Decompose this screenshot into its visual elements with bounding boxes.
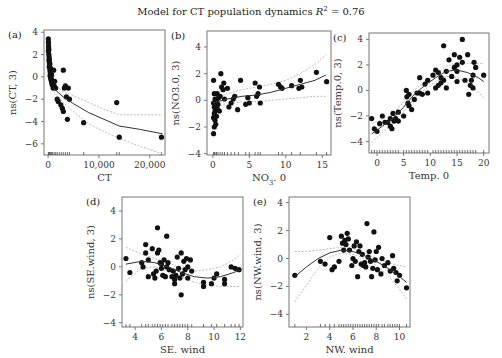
y-tick-label: 4 [357,34,363,44]
data-point [299,84,304,89]
data-point [417,75,422,80]
data-point [65,117,70,122]
x-tick-label: 10 [425,158,437,168]
y-tick-label: 2 [32,50,38,60]
data-point [189,268,194,273]
data-point [343,242,348,247]
data-point [52,79,57,84]
data-point [436,70,441,75]
data-point [367,249,372,254]
data-point [349,263,354,268]
y-tick-label: −4 [270,309,284,319]
data-point [66,85,71,90]
data-point [454,62,459,67]
data-point [469,78,474,83]
y-axis-label: ns(NO3.0, 3) [170,60,181,125]
y-tick-label: −2 [188,122,201,132]
data-point [211,78,216,83]
data-point [460,60,465,65]
data-point [401,113,406,118]
data-point [221,80,226,85]
data-point [354,239,359,244]
data-point [357,243,362,248]
data-point [339,234,344,239]
data-point [179,250,184,255]
data-point [364,221,369,226]
data-point [220,87,225,92]
x-tick-label: 5 [401,158,407,168]
y-tick-label: 2 [357,60,363,70]
x-tick-label: 4 [327,332,333,342]
data-point [353,259,358,264]
data-point [257,84,262,89]
y-tick-label: 2 [110,234,116,244]
data-point [212,124,217,129]
data-point [346,236,351,241]
data-point [454,79,459,84]
data-point [420,92,425,97]
data-point [470,85,475,90]
data-point [49,72,54,77]
y-tick-label: 4 [32,27,38,37]
data-point [473,65,478,70]
x-tick-label: 20,000 [134,160,166,170]
y-axis-label: ns(Temp.0, 3) [332,58,343,127]
data-point [114,100,119,105]
y-tick-label: 0 [357,85,363,95]
x-tick-label: 6 [350,332,356,342]
panel-label: (a) [8,29,22,40]
data-point [222,281,227,286]
ci-lower-line [295,253,407,302]
gam-figure: Model for CT population dynamics R2 = 0.… [0,0,502,358]
x-tick-label: 15 [451,158,463,168]
panel-a: (a)−6−4−2024010,00020,000CTns(CT, 3) [7,27,166,183]
data-point [214,271,219,276]
data-point [404,285,409,290]
x-axis-label: NO3. 0 [252,172,286,187]
data-point [324,79,329,84]
ci-lower-line [372,76,484,142]
data-point [127,270,132,275]
data-point [140,264,145,269]
data-point [457,55,462,60]
panel-label: (c) [333,32,347,43]
data-point [425,90,430,95]
data-point [179,292,184,297]
y-tick-label: −2 [350,111,363,121]
y-axis-label: ns(SE.wind, 3) [85,225,96,299]
data-point [247,100,252,105]
x-tick-label: 8 [185,332,191,342]
data-point [379,256,384,261]
data-point [481,73,486,78]
x-tick-label: 15 [317,160,329,170]
y-tick-label: −4 [350,137,364,147]
data-point [258,100,263,105]
data-point [163,274,168,279]
x-tick-label: 4 [132,332,138,342]
x-tick-label: 10 [280,160,292,170]
data-point [395,278,400,283]
data-point [81,120,86,125]
data-point [371,229,376,234]
data-point [61,109,66,114]
data-point [347,248,352,253]
data-point [217,108,222,113]
data-point [218,71,223,76]
data-point [355,274,360,279]
y-tick-label: −2 [25,94,38,104]
data-point [156,248,161,253]
data-point [378,271,383,276]
panel-b: (b)−4−2024051015NO3. 0ns(NO3.0, 3) [170,30,331,187]
data-point [389,126,394,131]
data-point [143,242,148,247]
data-point [225,86,230,91]
data-point [218,94,223,99]
panel-label: (b) [171,30,185,41]
data-point [185,275,190,280]
x-tick-label: 0 [45,160,51,170]
data-point [146,274,151,279]
data-point [444,85,449,90]
data-point [465,52,470,57]
data-point [318,259,323,264]
data-point [46,47,51,52]
